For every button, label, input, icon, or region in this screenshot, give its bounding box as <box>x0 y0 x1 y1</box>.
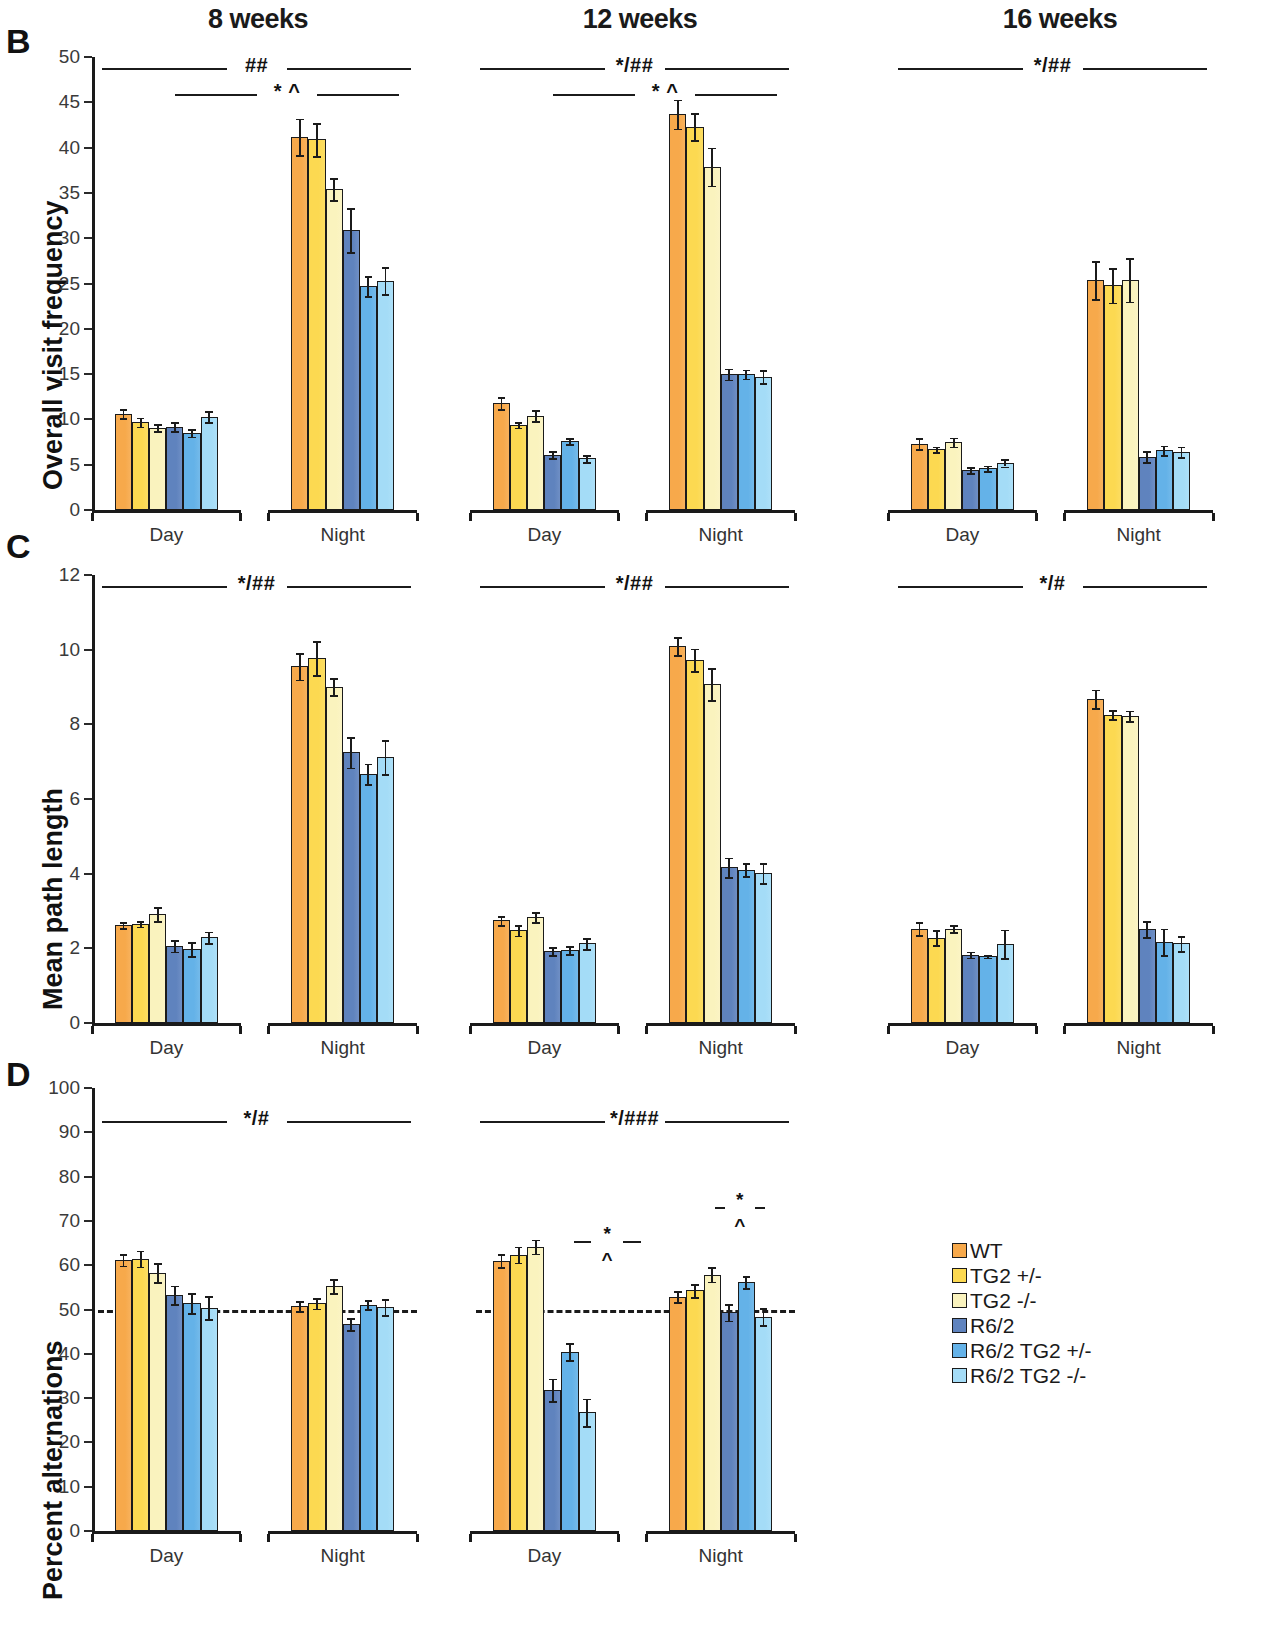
error-bar-cap <box>382 774 390 776</box>
x-axis-tick <box>1212 1026 1215 1034</box>
x-axis-tick <box>239 513 242 521</box>
x-axis-segment <box>1064 510 1213 513</box>
error-bar-cap <box>171 422 179 424</box>
y-axis-tick <box>84 147 92 149</box>
legend-swatch-wt <box>952 1243 967 1258</box>
significance-bracket-night-genotypes-label-caret: ^ <box>734 1215 746 1237</box>
bar <box>1139 457 1156 510</box>
bar <box>115 1260 132 1531</box>
error-bar <box>763 863 765 883</box>
significance-bracket-day-genotypes-label-caret: ^ <box>602 1249 614 1271</box>
y-axis-tick-label: 20 <box>59 1431 80 1453</box>
plot-panel-c-16-weeks: DayNight*/# <box>888 575 1213 1023</box>
bar <box>579 943 596 1023</box>
error-bar-cap <box>137 1267 145 1269</box>
x-axis-segment <box>92 1023 241 1026</box>
y-axis-tick <box>84 1087 92 1089</box>
x-axis-group-label: Night <box>1116 1037 1160 1059</box>
bar <box>343 230 360 510</box>
error-bar <box>316 123 318 156</box>
y-axis-tick-label: 10 <box>59 639 80 661</box>
y-axis-tick-label: 8 <box>69 713 80 735</box>
error-bar-cap <box>1001 459 1009 461</box>
y-axis-tick <box>84 237 92 239</box>
bar <box>669 646 686 1023</box>
x-axis-group-label: Night <box>698 1037 742 1059</box>
significance-bracket-night-genotypes-line-left <box>715 1207 725 1209</box>
bar <box>962 955 979 1023</box>
significance-bracket-night-line-left <box>553 94 635 96</box>
plot-panel-d-12-weeks: DayNight*/###*^*^ <box>470 1088 795 1531</box>
error-bar-cap <box>171 952 179 954</box>
legend-item: R6/2 TG2 +/- <box>952 1338 1092 1363</box>
error-bar-cap <box>743 863 751 865</box>
bar <box>704 684 721 1023</box>
error-bar <box>385 740 387 774</box>
x-axis-tick <box>239 1534 242 1542</box>
bar <box>291 137 308 510</box>
error-bar-cap <box>347 252 355 254</box>
y-axis-tick-label: 10 <box>59 408 80 430</box>
x-axis-tick <box>645 1534 648 1542</box>
error-bar-cap <box>743 370 751 372</box>
bar <box>510 425 527 510</box>
error-bar-cap <box>171 1286 179 1288</box>
error-bar-cap <box>916 438 924 440</box>
bar <box>1087 280 1104 510</box>
error-bar-cap <box>120 1254 128 1256</box>
bar <box>1156 450 1173 510</box>
error-bar-cap <box>691 113 699 115</box>
error-bar-cap <box>691 1284 699 1286</box>
x-axis-tick <box>267 1026 270 1034</box>
x-axis-group-label: Night <box>320 1037 364 1059</box>
error-bar-cap <box>532 421 540 423</box>
error-bar-cap <box>916 935 924 937</box>
bar <box>510 930 527 1023</box>
error-bar-cap <box>1161 446 1169 448</box>
error-bar-cap <box>674 1291 682 1293</box>
error-bar-cap <box>1092 708 1100 710</box>
bar <box>201 417 218 510</box>
error-bar-cap <box>382 1299 390 1301</box>
error-bar-cap <box>760 883 768 885</box>
error-bar <box>299 653 301 679</box>
panel-letter-b: B <box>6 22 31 61</box>
x-axis-tick <box>617 1026 620 1034</box>
error-bar <box>157 907 159 921</box>
error-bar-cap <box>154 907 162 909</box>
bar <box>166 946 183 1023</box>
y-axis-tick <box>84 283 92 285</box>
error-bar-cap <box>296 680 304 682</box>
y-axis-tick <box>84 328 92 330</box>
significance-bracket-day-night-line-right <box>287 1121 412 1123</box>
error-bar-cap <box>950 438 958 440</box>
error-bar-cap <box>950 925 958 927</box>
error-bar <box>333 678 335 694</box>
bar <box>997 463 1014 510</box>
x-axis-tick <box>1063 513 1066 521</box>
significance-bracket-day-night-line-left <box>102 1121 227 1123</box>
error-bar <box>1004 930 1006 958</box>
x-axis-group-label: Night <box>698 1545 742 1567</box>
error-bar-cap <box>760 1325 768 1327</box>
x-axis-segment <box>1064 1023 1213 1026</box>
bar <box>945 442 962 510</box>
bar <box>510 1255 527 1531</box>
y-axis-tick-label: 2 <box>69 937 80 959</box>
error-bar <box>763 370 765 383</box>
bar <box>308 1303 325 1531</box>
error-bar-cap <box>760 370 768 372</box>
significance-bracket-day-night-label: */## <box>616 54 654 77</box>
bar <box>115 414 132 510</box>
bar <box>183 1303 200 1531</box>
y-axis-tick-label: 25 <box>59 273 80 295</box>
error-bar-cap <box>171 940 179 942</box>
error-bar-cap <box>674 1302 682 1304</box>
error-bar <box>535 1240 537 1254</box>
y-axis-tick-label: 4 <box>69 863 80 885</box>
error-bar-cap <box>1126 721 1134 723</box>
error-bar-cap <box>691 671 699 673</box>
significance-bracket-day-night-line-right <box>665 68 790 70</box>
panel-letter-d: D <box>6 1055 31 1094</box>
legend-swatch-tg2-ko <box>952 1293 967 1308</box>
